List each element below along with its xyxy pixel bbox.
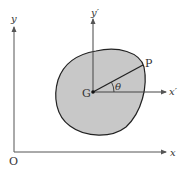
point-p-label: P [145,57,153,70]
x-axis-label: x [170,147,176,158]
x-prime-label: x′ [169,86,178,97]
theta-label: θ [115,81,121,92]
origin-label: O [9,155,18,168]
centroid-label: G [82,87,91,100]
y-prime-label: y′ [90,7,100,18]
y-axis-label: y [10,13,17,24]
rigid-body-diagram: O x y G x′ y′ P θ [0,0,190,172]
centroid-dot [91,90,95,94]
